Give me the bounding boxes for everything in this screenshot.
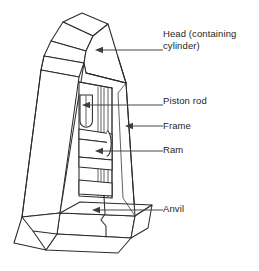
callout-label-piston-rod: Piston rod <box>163 95 207 107</box>
callout-label-ram: Ram <box>163 144 183 156</box>
callout-label-frame: Frame <box>163 120 191 132</box>
figure-root: Head (containing cylinder) Piston rod Fr… <box>0 0 259 271</box>
base-foot-front <box>46 234 131 253</box>
callout-label-anvil: Anvil <box>163 203 184 215</box>
anvil-top-plate <box>79 180 112 196</box>
callout-label-head: Head (containing cylinder) <box>163 28 236 51</box>
